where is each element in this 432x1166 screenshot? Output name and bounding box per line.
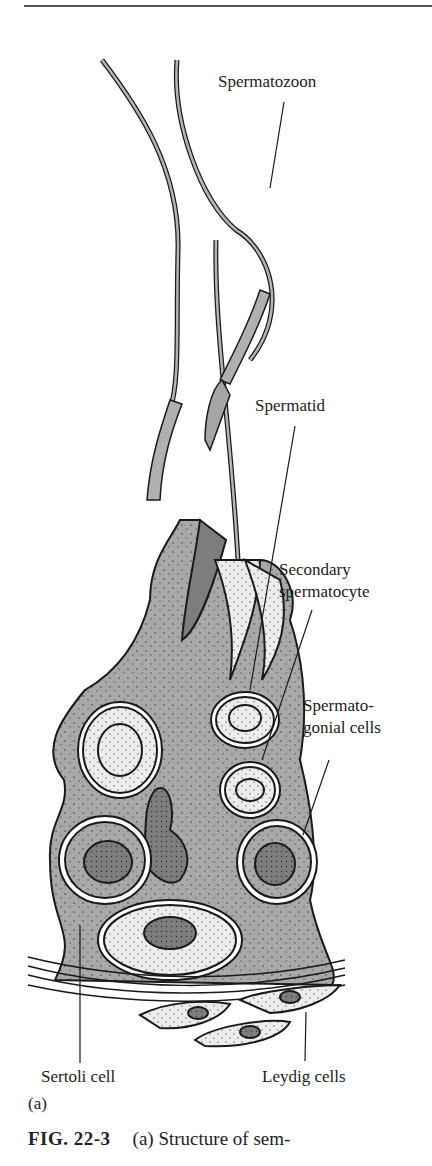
label-spermatozoon: Spermatozoon (218, 72, 316, 92)
caption-text: (a) Structure of sem- (133, 1128, 291, 1149)
midpieces (147, 290, 270, 500)
label-spermatogonial-1: Spermato- (303, 696, 374, 716)
spermatozoon-tails (102, 60, 272, 560)
label-leydig-cells: Leydig cells (262, 1067, 346, 1087)
panel-label: (a) (28, 1094, 47, 1114)
label-sertoli-cell: Sertoli cell (41, 1067, 115, 1087)
figure-caption: FIG. 22-3(a) Structure of sem- (28, 1128, 290, 1150)
label-spermatid: Spermatid (255, 396, 325, 416)
seminiferous-tubule-illustration (0, 0, 432, 1110)
primary-spermatocyte (98, 900, 242, 980)
label-secondary-spermatocyte-1: Secondary (279, 560, 351, 580)
leydig-cells (140, 985, 340, 1046)
label-spermatogonial-2: gonial cells (303, 718, 381, 738)
figure-number: FIG. 22-3 (28, 1128, 111, 1149)
label-secondary-spermatocyte-2: spermatocyte (279, 582, 370, 602)
